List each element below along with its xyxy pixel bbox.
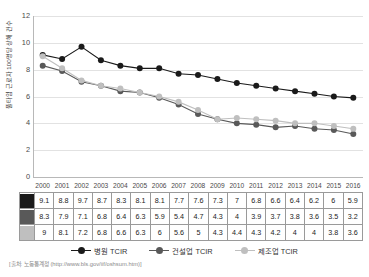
data-point <box>117 63 123 69</box>
data-point <box>156 94 162 100</box>
data-point <box>156 65 162 71</box>
legend-item-1[interactable]: 병원 TCIR <box>71 245 127 256</box>
plot-area: 풀타임 근로자 100명당 상해 건수 121086420 <box>0 0 369 178</box>
table-cell: 9 <box>35 225 54 241</box>
data-point <box>40 63 46 69</box>
table-cell: 7.3 <box>208 193 227 209</box>
table-cell: 5.4 <box>169 209 188 225</box>
x-tick-label: 2012 <box>266 180 285 191</box>
series-1 <box>40 44 357 101</box>
data-point <box>234 115 240 121</box>
data-point <box>98 83 104 89</box>
data-point <box>195 72 201 78</box>
table-cell: 3.6 <box>304 209 323 225</box>
table-cell: 3.6 <box>343 225 363 241</box>
x-tick-label: 2002 <box>72 180 91 191</box>
chart-figure: 풀타임 근로자 100명당 상해 건수 121086420 2000200120… <box>0 0 369 277</box>
data-point <box>59 56 65 62</box>
table-cell: 3.8 <box>324 225 343 241</box>
data-point <box>214 116 220 122</box>
table-cell: 5.6 <box>169 225 188 241</box>
table-cell: 6.6 <box>266 193 285 209</box>
data-point <box>176 99 182 105</box>
table-cell: 6 <box>150 225 169 241</box>
data-point <box>214 76 220 82</box>
table-cell: 3.8 <box>285 209 304 225</box>
table-row: 98.17.26.86.66.365.654.34.44.34.2443.83.… <box>20 225 363 241</box>
table-cell: 5.9 <box>343 193 363 209</box>
table-row: 9.18.89.78.78.38.18.17.77.67.376.86.66.4… <box>20 193 363 209</box>
series-color-swatch <box>20 193 35 209</box>
x-tick-label: 2000 <box>33 180 52 191</box>
data-point <box>98 57 104 63</box>
data-point <box>234 120 240 126</box>
legend-marker-icon <box>149 246 169 255</box>
data-point <box>331 94 337 100</box>
x-tick-label: 2001 <box>52 180 71 191</box>
data-point <box>311 120 317 126</box>
x-tick-label: 2008 <box>188 180 207 191</box>
series-color-swatch <box>20 209 35 225</box>
table-cell: 8.3 <box>112 193 131 209</box>
data-point <box>253 83 259 89</box>
data-point <box>292 120 298 126</box>
data-point <box>273 85 279 91</box>
x-tick-label: 2010 <box>227 180 246 191</box>
data-point <box>273 118 279 124</box>
data-point <box>59 65 65 71</box>
x-tick-label: 2016 <box>344 180 363 191</box>
data-table-body: 9.18.89.78.78.38.18.17.77.67.376.86.66.4… <box>20 193 363 241</box>
table-cell: 6.8 <box>92 225 111 241</box>
table-cell: 4.7 <box>189 209 208 225</box>
table-cell: 8.8 <box>54 193 73 209</box>
table-cell: 4.3 <box>247 225 266 241</box>
data-table: 9.18.89.78.78.38.18.17.77.67.376.86.66.4… <box>19 192 363 241</box>
series-color-swatch <box>20 225 35 241</box>
source-note: [출처: 노동통계청 (http://www.bls.gov/iif/oshsu… <box>9 259 142 268</box>
data-point <box>350 126 356 132</box>
table-cell: 6.4 <box>112 209 131 225</box>
table-cell: 3.7 <box>266 209 285 225</box>
legend-item-3[interactable]: 제조업 TCIR <box>235 245 298 256</box>
data-point <box>137 65 143 71</box>
legend-label: 제조업 TCIR <box>258 245 298 256</box>
table-cell: 3.9 <box>247 209 266 225</box>
table-cell: 8.3 <box>35 209 54 225</box>
data-point <box>234 80 240 86</box>
table-cell: 4.2 <box>266 225 285 241</box>
legend-marker-icon <box>235 246 255 255</box>
data-point <box>311 126 317 132</box>
table-cell: 6.8 <box>92 209 111 225</box>
legend-label: 병원 TCIR <box>94 245 127 256</box>
x-tick-label: 2004 <box>111 180 130 191</box>
table-cell: 4 <box>285 225 304 241</box>
table-cell: 8.7 <box>92 193 111 209</box>
data-point <box>40 53 46 59</box>
table-cell: 7.9 <box>54 209 73 225</box>
x-tick-label: 2014 <box>305 180 324 191</box>
table-cell: 5.9 <box>150 209 169 225</box>
data-point <box>137 89 143 95</box>
x-tick-label: 2013 <box>285 180 304 191</box>
table-cell: 6.8 <box>247 193 266 209</box>
data-point <box>273 124 279 130</box>
table-cell: 5 <box>189 225 208 241</box>
table-cell: 7 <box>227 193 246 209</box>
data-point <box>331 123 337 129</box>
data-point <box>253 122 259 128</box>
legend-label: 건설업 TCIR <box>172 245 212 256</box>
table-cell: 8.1 <box>131 193 150 209</box>
table-cell: 7.2 <box>73 225 92 241</box>
data-point <box>292 88 298 94</box>
legend-item-2[interactable]: 건설업 TCIR <box>149 245 212 256</box>
table-cell: 7.7 <box>169 193 188 209</box>
legend-marker-icon <box>71 246 91 255</box>
data-point <box>195 107 201 113</box>
chart-legend: 병원 TCIR건설업 TCIR제조업 TCIR <box>0 243 369 257</box>
series-lines <box>0 0 369 178</box>
table-cell: 4.4 <box>227 225 246 241</box>
table-cell: 7.1 <box>73 209 92 225</box>
data-point <box>79 77 85 83</box>
table-cell: 7.6 <box>189 193 208 209</box>
table-cell: 8.1 <box>150 193 169 209</box>
